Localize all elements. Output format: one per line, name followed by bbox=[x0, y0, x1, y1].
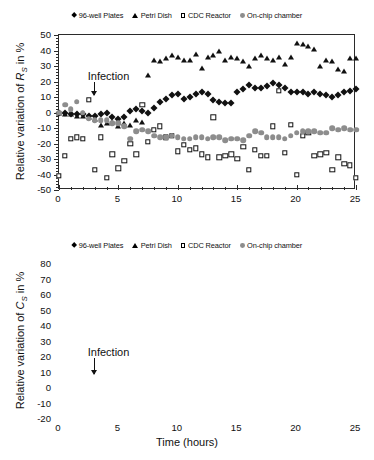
y-axis-minor-tick bbox=[56, 44, 59, 45]
data-point bbox=[288, 133, 294, 139]
y-axis-minor-tick bbox=[56, 57, 59, 58]
data-point bbox=[335, 155, 340, 160]
y-axis-major-tick bbox=[54, 128, 59, 129]
y-axis-tick-label: -10 bbox=[18, 397, 51, 408]
data-point bbox=[258, 153, 263, 158]
legend-label: On-chip chamber bbox=[247, 241, 302, 250]
x-axis-tick-label: 5 bbox=[115, 193, 120, 204]
y-axis-minor-tick bbox=[56, 100, 59, 101]
data-point bbox=[74, 135, 79, 140]
filled-diamond-icon bbox=[71, 12, 77, 18]
data-point bbox=[270, 135, 276, 141]
x-axis-minor-tick bbox=[332, 187, 333, 190]
y-axis-tick-label: -50 bbox=[18, 184, 51, 195]
y-axis-tick-label: 30 bbox=[18, 335, 51, 346]
filled-triangle-icon bbox=[132, 13, 138, 18]
y-axis-minor-tick bbox=[56, 153, 59, 154]
y-axis-major-tick bbox=[54, 97, 59, 98]
y-axis-tick-label: 20 bbox=[18, 351, 51, 362]
data-point bbox=[240, 138, 246, 144]
x-axis-minor-tick bbox=[285, 187, 286, 190]
data-point bbox=[270, 124, 275, 129]
legend-item-cdc-reactor: CDC Reactor bbox=[181, 11, 231, 20]
data-point bbox=[134, 152, 139, 157]
open-square-icon bbox=[181, 13, 186, 18]
x-axis-tick-label: 15 bbox=[231, 193, 242, 204]
data-point bbox=[276, 88, 281, 93]
x-axis-tick-label: 15 bbox=[231, 422, 242, 433]
legend-label: 96-well Plates bbox=[79, 241, 124, 250]
x-axis-major-tick bbox=[59, 185, 60, 190]
data-point bbox=[353, 56, 359, 61]
data-point bbox=[229, 152, 234, 157]
legend-item-96-well-plates: 96-well Plates bbox=[72, 241, 124, 250]
legend-label: 96-well Plates bbox=[79, 11, 124, 20]
y-axis-minor-tick bbox=[56, 150, 59, 151]
x-axis-tick-label: 5 bbox=[115, 422, 120, 433]
data-point bbox=[92, 117, 98, 123]
data-point bbox=[181, 142, 186, 147]
data-point bbox=[306, 128, 312, 134]
data-point bbox=[276, 54, 282, 59]
data-point bbox=[104, 175, 109, 180]
data-point bbox=[56, 173, 61, 178]
data-point bbox=[127, 122, 133, 127]
data-point bbox=[228, 136, 234, 142]
x-axis-tick-label: 25 bbox=[350, 193, 361, 204]
y-axis-tick-label: 40 bbox=[18, 44, 51, 55]
data-point bbox=[217, 155, 222, 160]
y-axis-minor-tick bbox=[56, 88, 59, 89]
y-axis-tick-label: 60 bbox=[18, 289, 51, 300]
y-axis-major-tick bbox=[54, 66, 59, 67]
y-axis-minor-tick bbox=[56, 69, 59, 70]
x-axis-tick-label: 20 bbox=[290, 193, 301, 204]
data-point bbox=[68, 136, 73, 141]
y-axis-tick-label: 40 bbox=[18, 320, 51, 331]
y-axis-tick-label: 10 bbox=[18, 91, 51, 102]
data-point bbox=[145, 139, 150, 144]
data-point bbox=[174, 90, 181, 97]
y-axis-minor-tick bbox=[56, 165, 59, 166]
data-point bbox=[122, 124, 128, 130]
data-point bbox=[56, 110, 62, 116]
infection-annotation-label: Infection bbox=[88, 346, 130, 358]
data-point bbox=[205, 136, 211, 142]
data-point bbox=[145, 109, 152, 116]
data-point bbox=[86, 97, 91, 102]
legend-item-petri-dish: Petri Dish bbox=[132, 241, 172, 250]
data-point bbox=[205, 155, 210, 160]
data-point bbox=[199, 65, 205, 70]
legend-label: CDC Reactor bbox=[188, 11, 231, 20]
data-point bbox=[145, 73, 151, 78]
data-point bbox=[193, 135, 199, 141]
y-axis-tick-label: 50 bbox=[18, 304, 51, 315]
data-point bbox=[98, 117, 104, 123]
data-point bbox=[216, 48, 222, 53]
x-axis-minor-tick bbox=[344, 187, 345, 190]
data-point bbox=[294, 172, 299, 177]
data-point bbox=[223, 153, 228, 158]
data-point bbox=[157, 135, 163, 141]
y-axis-minor-tick bbox=[56, 103, 59, 104]
infection-arrow-icon bbox=[94, 82, 95, 95]
data-point bbox=[169, 133, 175, 139]
y-axis-minor-tick bbox=[56, 168, 59, 169]
y-axis-major-tick bbox=[54, 190, 59, 191]
data-point bbox=[193, 51, 199, 56]
legend-label: Petri Dish bbox=[141, 241, 172, 250]
x-axis-major-tick bbox=[118, 185, 119, 190]
y-axis-minor-tick bbox=[56, 60, 59, 61]
y-axis-tick-label: -20 bbox=[18, 413, 51, 424]
data-point bbox=[352, 86, 359, 93]
data-point bbox=[324, 150, 329, 155]
x-axis-minor-tick bbox=[166, 187, 167, 190]
data-point bbox=[104, 117, 110, 123]
y-axis-minor-tick bbox=[56, 38, 59, 39]
data-point bbox=[211, 114, 216, 119]
y-axis-major-tick bbox=[54, 159, 59, 160]
data-point bbox=[347, 162, 352, 167]
y-axis-major-tick bbox=[54, 51, 59, 52]
x-axis-tick-label: 10 bbox=[171, 422, 182, 433]
data-point bbox=[318, 152, 323, 157]
x-axis-major-tick bbox=[356, 185, 357, 190]
